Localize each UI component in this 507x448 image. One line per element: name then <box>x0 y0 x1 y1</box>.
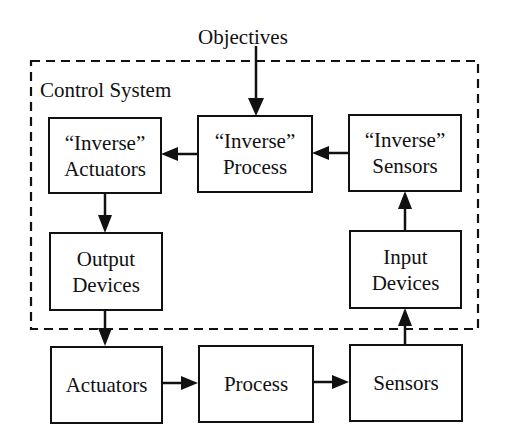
node-inverse-sensors: “Inverse” Sensors <box>348 114 462 192</box>
node-inverse-sensors-line2: Sensors <box>372 153 437 179</box>
node-input-devices: Input Devices <box>349 230 462 309</box>
node-actuators-label: Actuators <box>66 372 148 398</box>
arrow-inverse-process-to-inverse-actuators <box>161 147 197 161</box>
node-process-label: Process <box>224 371 288 397</box>
arrow-input-devices-to-inverse-sensors <box>398 191 412 231</box>
arrow-sensors-to-input-devices <box>398 308 412 345</box>
node-inverse-actuators-line1: “Inverse” <box>65 130 145 156</box>
node-inverse-process-line2: Process <box>223 154 287 180</box>
node-inverse-process: “Inverse” Process <box>197 115 313 193</box>
node-sensors: Sensors <box>349 344 463 422</box>
node-output-devices: Output Devices <box>49 232 163 311</box>
node-process: Process <box>198 345 314 423</box>
node-sensors-label: Sensors <box>373 370 438 396</box>
arrow-objectives-to-inverse-process <box>248 46 264 116</box>
arrow-inverse-sensors-to-inverse-process <box>312 146 348 160</box>
node-actuators: Actuators <box>50 346 163 424</box>
node-inverse-actuators-line2: Actuators <box>64 156 146 182</box>
node-input-devices-line1: Input <box>383 244 427 270</box>
control-system-label: Control System <box>40 78 171 102</box>
node-output-devices-line2: Devices <box>72 272 140 298</box>
arrow-inverse-actuators-to-output-devices <box>98 193 112 233</box>
node-inverse-actuators: “Inverse” Actuators <box>48 117 162 194</box>
node-output-devices-line1: Output <box>77 246 135 272</box>
arrow-process-to-sensors <box>313 375 349 389</box>
arrow-actuators-to-process <box>162 376 198 390</box>
node-input-devices-line2: Devices <box>372 270 440 296</box>
node-inverse-sensors-line1: “Inverse” <box>365 127 445 153</box>
objectives-label: Objectives <box>198 25 288 49</box>
node-inverse-process-line1: “Inverse” <box>215 128 295 154</box>
arrow-output-devices-to-actuators <box>98 310 112 346</box>
